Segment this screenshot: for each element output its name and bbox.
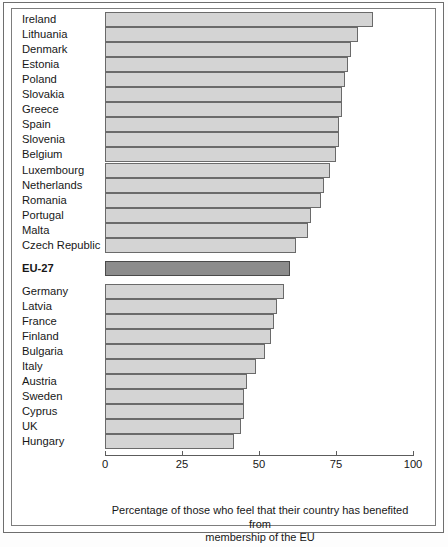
x-axis-caption-line-1: Percentage of those who feel that their … [112,504,409,530]
x-axis-tick-label-0: 0 [85,458,125,470]
bar-row-sweden: Sweden [0,389,448,404]
bar-row-netherlands: Netherlands [0,178,448,193]
bar-denmark [105,42,351,57]
bar-malta [105,223,308,238]
bar-row-estonia: Estonia [0,57,448,72]
bar-finland [105,329,271,344]
x-axis-caption-line-2: membership of the EU [205,531,314,543]
figure: IrelandLithuaniaDenmarkEstoniaPolandSlov… [0,0,448,547]
bar-row-slovakia: Slovakia [0,87,448,102]
bar-row-finland: Finland [0,329,448,344]
bar-germany [105,284,284,299]
bar-row-luxembourg: Luxembourg [0,163,448,178]
bar-row-eu-27: EU-27 [0,261,448,276]
bar-uk [105,419,241,434]
bar-row-hungary: Hungary [0,434,448,449]
bar-cyprus [105,404,244,419]
x-axis-tick-25 [182,451,183,456]
bar-row-poland: Poland [0,72,448,87]
x-axis-tick-label-50: 50 [239,458,279,470]
bar-row-portugal: Portugal [0,208,448,223]
bar-slovakia [105,87,342,102]
bar-romania [105,193,321,208]
bar-row-denmark: Denmark [0,42,448,57]
bar-row-austria: Austria [0,374,448,389]
bar-row-ireland: Ireland [0,12,448,27]
bar-ireland [105,12,373,27]
bar-luxembourg [105,163,330,178]
bar-lithuania [105,27,358,42]
bar-spain [105,117,339,132]
x-axis-tick-100 [413,451,414,456]
bar-greece [105,102,342,117]
bar-estonia [105,57,348,72]
bar-row-spain: Spain [0,117,448,132]
bar-row-italy: Italy [0,359,448,374]
bar-row-germany: Germany [0,284,448,299]
bar-row-bulgaria: Bulgaria [0,344,448,359]
bar-row-romania: Romania [0,193,448,208]
bar-poland [105,72,345,87]
bar-eu-27 [105,261,290,276]
bar-bulgaria [105,344,265,359]
bar-czech-republic [105,238,296,253]
bar-france [105,314,274,329]
bar-row-slovenia: Slovenia [0,132,448,147]
bar-row-malta: Malta [0,223,448,238]
bar-row-latvia: Latvia [0,299,448,314]
bar-row-czech-republic: Czech Republic [0,238,448,253]
x-axis-tick-75 [336,451,337,456]
bar-row-uk: UK [0,419,448,434]
x-axis-caption: Percentage of those who feel that their … [104,504,416,545]
bar-italy [105,359,256,374]
bar-row-cyprus: Cyprus [0,404,448,419]
x-axis-tick-50 [259,451,260,456]
x-axis-tick-label-100: 100 [393,458,433,470]
bar-slovenia [105,132,339,147]
bar-row-france: France [0,314,448,329]
bar-row-belgium: Belgium [0,147,448,162]
bar-hungary [105,434,234,449]
bar-austria [105,374,247,389]
bar-chart-plot-area: IrelandLithuaniaDenmarkEstoniaPolandSlov… [0,0,448,547]
bar-row-greece: Greece [0,102,448,117]
bar-latvia [105,299,277,314]
x-axis-tick-label-25: 25 [162,458,202,470]
bar-sweden [105,389,244,404]
x-axis-tick-0 [105,451,106,456]
bar-netherlands [105,178,324,193]
bar-portugal [105,208,311,223]
bar-belgium [105,147,336,162]
x-axis-tick-label-75: 75 [316,458,356,470]
bar-row-lithuania: Lithuania [0,27,448,42]
